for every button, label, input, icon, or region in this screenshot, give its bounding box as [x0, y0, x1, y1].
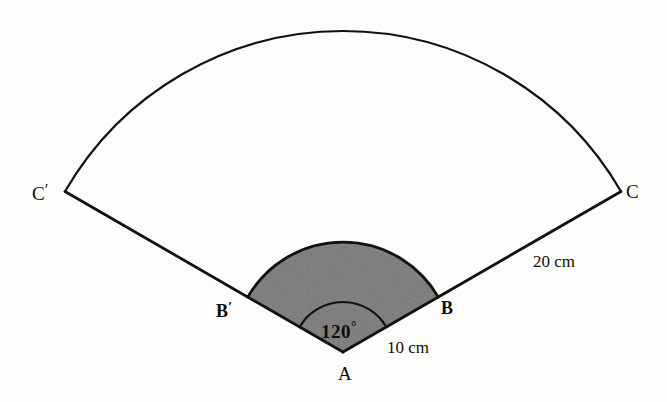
vertex-label-b-prime: B′	[216, 299, 232, 320]
vertex-label-c: C	[626, 182, 639, 201]
vertex-label-b: B	[441, 299, 453, 317]
measure-label-outer-radius: 20 cm	[533, 253, 575, 270]
vertex-label-b-prime-letter: B	[216, 301, 228, 321]
figure-canvas: C C′ B B′ A 120° 20 cm 10 cm	[0, 0, 667, 402]
measure-label-inner-radius: 10 cm	[387, 339, 429, 356]
vertex-label-a: A	[338, 364, 352, 383]
outer-arc	[65, 31, 621, 192]
vertex-label-c-prime: C′	[32, 182, 48, 203]
vertex-label-c-prime-letter: C	[32, 183, 45, 204]
degree-symbol: °	[351, 319, 357, 334]
angle-value-text: 120	[321, 321, 351, 342]
prime-mark-c: ′	[45, 181, 49, 198]
angle-label-120: 120°	[321, 320, 357, 341]
prime-mark-b: ′	[228, 298, 232, 315]
